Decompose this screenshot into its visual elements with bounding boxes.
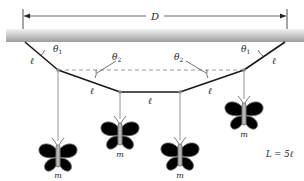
mass-label-4: m bbox=[240, 130, 248, 139]
joint-2 bbox=[118, 90, 122, 94]
joint-1 bbox=[56, 68, 60, 72]
theta2-right-arc bbox=[207, 70, 208, 78]
butterfly-4-icon bbox=[225, 96, 263, 129]
butterfly-1-icon bbox=[39, 138, 77, 171]
theta1-right-arc bbox=[258, 50, 263, 56]
theta1-left-label: θ1 bbox=[53, 44, 62, 55]
theta2-right-label: θ2 bbox=[174, 52, 183, 63]
joint-4 bbox=[242, 68, 246, 72]
segment-label-4: ℓ bbox=[208, 86, 212, 96]
mobile-diagram: D θ1 θ1 θ2 θ2 ℓ ℓ ℓ ℓ ℓ .light .wing { f… bbox=[0, 0, 304, 181]
theta1-left-arc bbox=[40, 50, 45, 56]
theta1-right-label: θ1 bbox=[241, 44, 250, 55]
theta2-right-leader bbox=[186, 61, 206, 73]
joints bbox=[56, 68, 246, 94]
arrowhead-right-icon bbox=[280, 14, 286, 19]
arrowhead-left-icon bbox=[24, 14, 30, 19]
dimension-label: D bbox=[150, 11, 159, 22]
length-relation: L = 5ℓ bbox=[265, 149, 294, 159]
butterfly-2-icon bbox=[101, 116, 139, 149]
segment-label-5: ℓ bbox=[272, 56, 276, 66]
ceiling-bar bbox=[6, 29, 304, 42]
mass-label-2: m bbox=[116, 150, 124, 159]
dimension-d: D bbox=[23, 9, 287, 29]
mass-label-1: m bbox=[54, 171, 62, 180]
theta2-left-arc bbox=[95, 70, 96, 78]
butterfly-3-icon bbox=[161, 137, 199, 170]
joint-3 bbox=[178, 90, 182, 94]
segment-label-3: ℓ bbox=[148, 96, 152, 106]
theta2-left-label: θ2 bbox=[112, 52, 121, 63]
mass-label-3: m bbox=[176, 171, 184, 180]
segment-label-2: ℓ bbox=[90, 86, 94, 96]
theta2-left-leader bbox=[97, 61, 116, 73]
segment-label-1: ℓ bbox=[30, 56, 34, 66]
